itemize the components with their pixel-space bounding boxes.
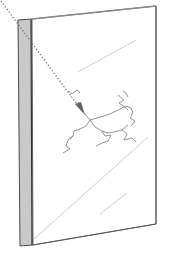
pane-edge-side <box>18 19 33 246</box>
glass-pane-diagram <box>0 0 169 260</box>
